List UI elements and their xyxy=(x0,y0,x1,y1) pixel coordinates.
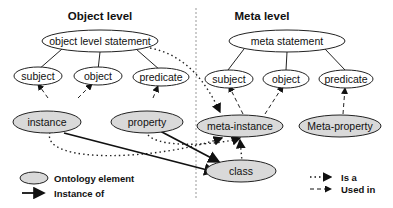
svg-text:object: object xyxy=(84,70,112,82)
svg-text:object: object xyxy=(272,73,300,85)
meta-subject: subject xyxy=(205,70,253,88)
ontology-diagram: Object level Meta level object level sta… xyxy=(0,0,393,208)
object-level-title: Object level xyxy=(68,10,133,22)
svg-text:property: property xyxy=(128,116,167,128)
svg-text:Instance of: Instance of xyxy=(54,188,105,199)
meta-property-element: Meta-property xyxy=(299,115,381,137)
svg-text:instance: instance xyxy=(27,116,66,128)
meta-object: object xyxy=(263,70,309,88)
svg-text:meta-instance: meta-instance xyxy=(207,120,273,132)
object-subject: subject xyxy=(14,67,62,85)
meta-predicate: predicate xyxy=(319,70,373,88)
svg-text:Used in: Used in xyxy=(341,184,376,195)
svg-text:Is a: Is a xyxy=(341,172,358,183)
object-level-statement: object level statement xyxy=(42,30,158,52)
svg-text:predicate: predicate xyxy=(139,71,182,83)
meta-level-title: Meta level xyxy=(235,10,290,22)
svg-text:predicate: predicate xyxy=(324,73,367,85)
meta-statement: meta statement xyxy=(229,30,345,52)
svg-text:subject: subject xyxy=(21,70,54,82)
object-predicate: predicate xyxy=(133,68,189,86)
class-element: class xyxy=(206,160,276,182)
svg-text:subject: subject xyxy=(212,73,245,85)
meta-instance-element: meta-instance xyxy=(197,115,283,137)
svg-text:Ontology element: Ontology element xyxy=(54,173,135,184)
instance-element: instance xyxy=(13,111,81,133)
object-object: object xyxy=(74,67,122,85)
svg-text:meta statement: meta statement xyxy=(251,35,323,47)
svg-text:Meta-property: Meta-property xyxy=(307,120,373,132)
svg-text:class: class xyxy=(229,165,253,177)
legend-ontology-element: Ontology element xyxy=(20,172,135,184)
legend-used-in: Used in xyxy=(310,184,376,195)
property-element: property xyxy=(111,111,183,133)
legend-is-a: Is a xyxy=(310,172,358,183)
svg-text:object level statement: object level statement xyxy=(49,35,151,47)
legend-instance-of: Instance of xyxy=(22,188,105,199)
